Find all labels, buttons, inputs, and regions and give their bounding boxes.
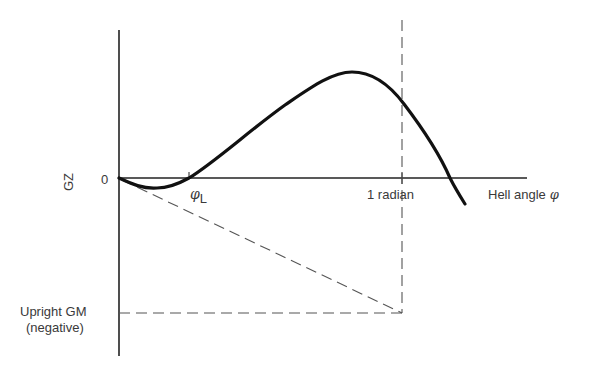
origin-label: 0	[101, 172, 108, 187]
x-axis-label: Hell angleφ	[488, 187, 560, 202]
radian-label: 1 radian	[367, 187, 414, 202]
gm-label-line2: (negative)	[26, 320, 84, 335]
loll-label: φL	[190, 186, 207, 206]
gz-diagram: GZ 0 φL 1 radian Hell angleφ Upright GM …	[0, 0, 595, 372]
tangent-dashed-line	[122, 180, 402, 313]
gm-label-line1: Upright GM	[20, 304, 86, 319]
gz-curve	[119, 72, 465, 204]
gz-axis-label: GZ	[61, 173, 76, 191]
